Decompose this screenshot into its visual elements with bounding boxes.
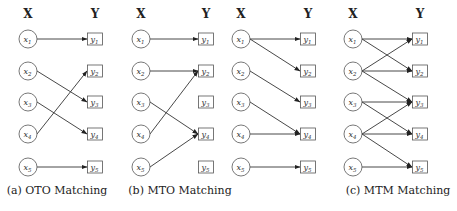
edge-x4-y5 [362,134,412,167]
y-node-y2: y2 [199,65,214,77]
x-set-header: X [236,7,246,21]
y-node-y4: y4 [413,128,428,140]
edge-x2-y3 [250,71,300,102]
x-node-x4: x4 [344,125,362,143]
panel-oto: XYx1x2x3x4x5y1y2y3y4y5(a) OTO Matching [7,7,108,197]
x-node-x2: x2 [344,62,362,80]
x-node-x2: x2 [132,62,150,80]
x-node-x2: x2 [19,62,37,80]
y-node-y1: y1 [413,33,428,45]
x-node-x4: x4 [232,125,250,143]
x-node-x5: x5 [19,158,37,176]
x-node-x1: x1 [19,30,37,48]
x-set-header: X [23,7,33,21]
x-node-x3: x3 [132,93,150,111]
x-node-x3: x3 [19,93,37,111]
panel-mtm: XYx1x2x3x4x5y1y2y3y4y5(c) MTM Matching [344,7,450,197]
x-set-header: X [348,7,358,21]
y-node-y3: y3 [88,96,103,108]
y-node-y4: y4 [88,128,103,140]
y-set-header: Y [201,7,211,21]
panel-otm: XYx1x2x3x4x5y1y2y3y4y5 [232,7,316,176]
caption-mtm: (c) MTM Matching [346,184,451,197]
y-set-header: Y [90,7,100,21]
x-node-x3: x3 [344,93,362,111]
edge-x3-y4 [37,102,87,134]
x-set-header: X [136,7,146,21]
y-node-y5: y5 [413,161,428,173]
x-node-x1: x1 [232,30,250,48]
x-node-x2: x2 [232,62,250,80]
y-node-y4: y4 [199,128,214,140]
y-node-y1: y1 [199,33,214,45]
y-node-y5: y5 [301,161,316,173]
edge-x3-y4 [150,102,198,134]
y-node-y4: y4 [301,128,316,140]
y-node-y5: y5 [199,161,214,173]
x-node-x5: x5 [232,158,250,176]
y-node-y2: y2 [301,65,316,77]
edges [250,39,300,167]
caption-oto: (a) OTO Matching [7,184,108,197]
edge-x3-y4 [250,102,300,134]
y-set-header: Y [303,7,313,21]
y-node-y5: y5 [88,161,103,173]
x-node-x1: x1 [132,30,150,48]
y-node-y1: y1 [301,33,316,45]
edge-x2-y3 [37,71,87,102]
x-node-x4: x4 [132,125,150,143]
y-node-y2: y2 [88,65,103,77]
y-node-y1: y1 [88,33,103,45]
x-node-x5: x5 [132,158,150,176]
x-node-x5: x5 [344,158,362,176]
y-node-y3: y3 [301,96,316,108]
x-node-x4: x4 [19,125,37,143]
y-node-y3: y3 [199,96,214,108]
edges [362,39,412,167]
edge-x1-y2 [250,39,300,71]
caption-mto: (b) MTO Matching [128,184,231,197]
panel-mto: XYx1x2x3x4x5y1y2y3y4y5(b) MTO Matching [128,7,231,197]
edge-x2-y3 [362,71,412,102]
y-set-header: Y [415,7,425,21]
x-node-x3: x3 [232,93,250,111]
edges [150,39,198,167]
y-node-y2: y2 [413,65,428,77]
edge-x4-y2 [150,71,198,134]
edges [37,39,87,167]
y-node-y3: y3 [413,96,428,108]
x-node-x1: x1 [344,30,362,48]
edge-x4-y2 [37,71,87,134]
edge-x5-y4 [150,134,198,167]
matching-diagram-figure: XYx1x2x3x4x5y1y2y3y4y5(a) OTO MatchingXY… [0,0,457,211]
